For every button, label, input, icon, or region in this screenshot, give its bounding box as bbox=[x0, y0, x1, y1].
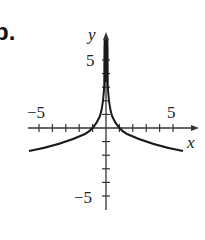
asymptote-cluster bbox=[104, 40, 109, 82]
x-tick-label-neg5: −5 bbox=[27, 104, 45, 121]
y-axis-arrow-icon bbox=[103, 32, 109, 40]
y-tick-label-neg5: −5 bbox=[74, 189, 92, 206]
x-axis-arrow-icon bbox=[191, 125, 199, 131]
x-axis-label: x bbox=[187, 134, 195, 151]
y-tick-label-5: 5 bbox=[86, 52, 95, 69]
curve-right-branch bbox=[107, 46, 183, 151]
y-axis-label: y bbox=[88, 26, 96, 43]
x-tick-label-5: 5 bbox=[167, 104, 176, 121]
